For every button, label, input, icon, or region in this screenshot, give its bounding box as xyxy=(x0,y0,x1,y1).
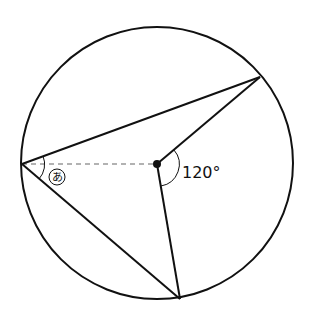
unknown-angle-label: あ xyxy=(52,171,63,184)
angle-arc-120 xyxy=(161,150,179,186)
chord-upper xyxy=(22,77,260,164)
radius-lower xyxy=(157,164,180,299)
angle-value-label: 120° xyxy=(182,163,221,182)
chord-lower xyxy=(22,164,180,299)
center-point xyxy=(153,160,161,168)
angle-arc-a xyxy=(39,156,45,179)
radius-upper xyxy=(157,77,260,164)
geometry-diagram: あ 120° xyxy=(0,0,310,319)
